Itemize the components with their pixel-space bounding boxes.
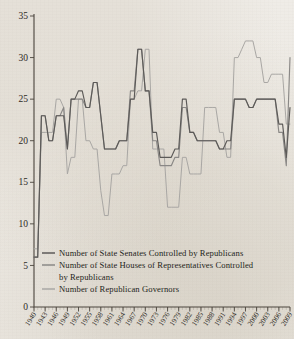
chart-legend: Number of State Senates Controlled by Re… <box>42 248 254 294</box>
y-tick-label: 5 <box>23 261 28 271</box>
legend-label-continued: by Republicans <box>59 272 114 282</box>
y-tick-label: 0 <box>23 302 28 312</box>
legend-label: Number of Republican Governors <box>59 284 180 294</box>
y-tick-label: 10 <box>19 219 29 229</box>
y-axis: 05101520253035 <box>19 11 35 312</box>
y-tick-label: 20 <box>19 136 29 146</box>
line-chart: 0510152025303519401943194619491952195519… <box>0 0 294 339</box>
series-line <box>34 41 290 249</box>
x-axis-labels: 1940194319461949195219551958196119641967… <box>23 307 294 328</box>
legend-label: Number of State Senates Controlled by Re… <box>59 248 244 258</box>
chart-figure: 0510152025303519401943194619491952195519… <box>0 0 294 339</box>
y-tick-label: 15 <box>19 177 29 187</box>
legend-label: Number of State Houses of Representative… <box>59 260 254 270</box>
y-tick-label: 25 <box>19 94 29 104</box>
x-tick-label: 2009 <box>279 310 294 328</box>
series-line <box>34 49 290 257</box>
series-line <box>34 49 290 257</box>
y-tick-label: 35 <box>19 11 29 21</box>
y-tick-label: 30 <box>19 53 29 63</box>
